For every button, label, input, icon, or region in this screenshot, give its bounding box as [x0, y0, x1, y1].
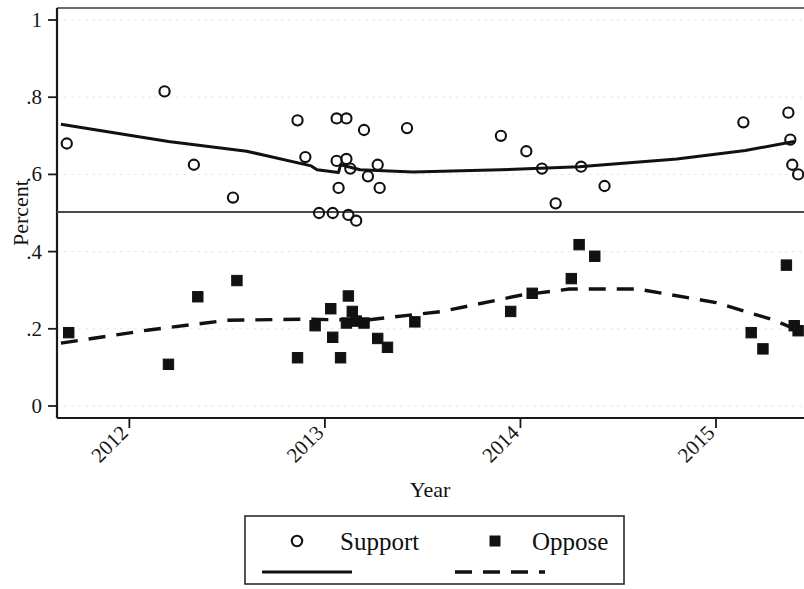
- y-tick-label: 0: [32, 394, 43, 418]
- data-point-oppose: [382, 342, 392, 352]
- chart-svg: 0.2.4.6.81 2012201320142015 Percent Year…: [0, 0, 804, 589]
- data-point-oppose: [746, 327, 756, 337]
- x-axis-title: Year: [410, 477, 451, 502]
- data-point-oppose: [758, 344, 768, 354]
- y-tick-label: .8: [26, 85, 42, 109]
- data-point-oppose: [326, 304, 336, 314]
- data-point-oppose: [347, 306, 357, 316]
- y-axis-title: Percent: [8, 180, 33, 246]
- data-point-oppose: [793, 326, 803, 336]
- data-point-oppose: [781, 260, 791, 270]
- y-tick-label: .2: [26, 317, 42, 341]
- data-point-oppose: [310, 321, 320, 331]
- data-point-oppose: [343, 291, 353, 301]
- data-point-oppose: [359, 318, 369, 328]
- data-point-oppose: [193, 292, 203, 302]
- data-point-oppose: [574, 239, 584, 249]
- data-point-oppose: [373, 333, 383, 343]
- chart-legend: Support Oppose: [245, 516, 624, 584]
- data-point-oppose: [328, 332, 338, 342]
- data-point-oppose: [335, 353, 345, 363]
- data-point-oppose: [341, 318, 351, 328]
- legend-label-oppose: Oppose: [532, 528, 608, 555]
- data-point-oppose: [64, 327, 74, 337]
- legend-label-support: Support: [340, 528, 419, 555]
- chart-figure: 0.2.4.6.81 2012201320142015 Percent Year…: [0, 0, 804, 589]
- data-point-oppose: [505, 306, 515, 316]
- data-point-oppose: [566, 273, 576, 283]
- y-tick-label: 1: [32, 8, 43, 32]
- figure-background: [0, 0, 804, 589]
- legend-oppose-marker-icon: [490, 536, 500, 546]
- data-point-oppose: [232, 275, 242, 285]
- data-point-oppose: [527, 288, 537, 298]
- data-point-oppose: [590, 251, 600, 261]
- data-point-oppose: [292, 353, 302, 363]
- data-point-oppose: [410, 317, 420, 327]
- data-point-oppose: [163, 359, 173, 369]
